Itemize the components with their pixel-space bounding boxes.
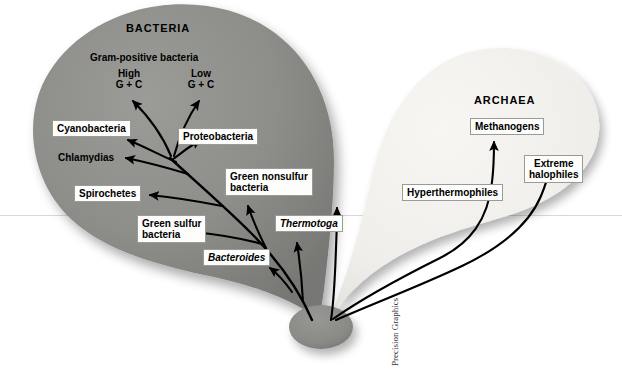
taxon-label-green-sulfur-bacteria: Green sulfur bacteria — [137, 215, 206, 243]
phylogenetic-tree-figure: BACTERIA ARCHAEA Gram-positive bacteria … — [0, 0, 622, 380]
green-nonsulfur-line1: Green nonsulfur — [230, 171, 308, 182]
green-nonsulfur-line2: bacteria — [230, 182, 268, 193]
taxon-label-proteobacteria: Proteobacteria — [178, 128, 258, 145]
taxon-label-green-nonsulfur-bacteria: Green nonsulfur bacteria — [225, 168, 313, 196]
high-gc-label-line2: G + C — [106, 79, 152, 90]
taxon-label-chlamydias: Chlamydias — [58, 152, 114, 163]
green-sulfur-line2: bacteria — [142, 229, 180, 240]
high-gc-label-line1: High — [106, 68, 152, 79]
extreme-halophiles-line1: Extreme — [534, 158, 573, 169]
gram-positive-bacteria-label: Gram-positive bacteria — [90, 52, 198, 63]
taxon-label-thermotoga: Thermotoga — [275, 215, 343, 232]
taxon-label-cyanobacteria: Cyanobacteria — [52, 120, 131, 137]
domain-title-archaea: ARCHAEA — [474, 94, 535, 106]
taxon-label-extreme-halophiles: Extreme halophiles — [524, 155, 583, 183]
green-sulfur-line1: Green sulfur — [142, 218, 201, 229]
low-gc-label-line2: G + C — [178, 79, 224, 90]
taxon-label-spirochetes: Spirochetes — [74, 185, 141, 202]
taxon-label-bacteroides: Bacteroides — [203, 249, 270, 266]
taxon-label-methanogens: Methanogens — [470, 118, 544, 135]
taxon-label-hyperthermophiles: Hyperthermophiles — [402, 184, 503, 201]
credit-text: Precision Graphics — [390, 298, 400, 366]
low-gc-label-line1: Low — [178, 68, 224, 79]
extreme-halophiles-line2: halophiles — [529, 169, 578, 180]
domain-title-bacteria: BACTERIA — [126, 22, 190, 34]
